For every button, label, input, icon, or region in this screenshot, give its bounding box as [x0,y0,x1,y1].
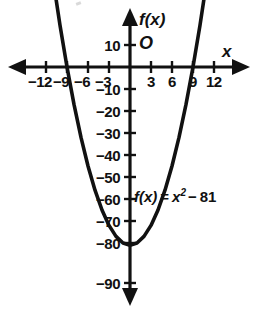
graph-figure: −12 −9 −6 −3 3 6 9 12 10 −10 −20 −30 −40… [0,0,258,309]
equation-annotation: f(x)=x2−81 [134,188,216,204]
y-axis-label: f(x) [139,11,165,28]
y-tick-label-neg80: −80 [88,236,120,251]
x-tick-label-3: 3 [147,74,155,89]
y-tick-label-neg10: −10 [88,82,120,97]
x-tick-label-9: 9 [189,74,197,89]
y-tick-label-neg70: −70 [88,214,120,229]
origin-label: O [139,34,153,52]
x-tick-label-6: 6 [168,74,176,89]
y-tick-label-neg20: −20 [88,104,120,119]
y-tick-label-10: 10 [98,38,120,53]
equation-constant: 81 [200,188,217,205]
y-tick-label-neg50: −50 [88,170,120,185]
x-tick-label-neg9: −9 [53,74,69,89]
y-tick-label-neg40: −40 [88,148,120,163]
y-axis [122,8,138,306]
equation-exponent: 2 [180,187,186,198]
x-tick-label-12: 12 [206,74,222,89]
y-tick-label-neg30: −30 [88,126,120,141]
equation-minus: − [188,188,197,205]
x-tick-label-neg12: −12 [28,74,52,89]
equation-lhs: f(x) [134,188,157,205]
y-tick-label-neg90: −90 [88,276,120,291]
y-tick-label-neg60: −60 [88,192,120,207]
parabola-plot [0,0,258,309]
x-axis-label: x [222,43,231,60]
equation-equals: = [160,188,169,205]
